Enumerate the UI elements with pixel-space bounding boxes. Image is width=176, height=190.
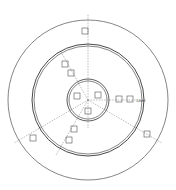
layout-diagram: 120m — [0, 0, 176, 190]
dimension-label: 120m — [136, 99, 145, 103]
sensor-units — [30, 28, 150, 143]
diagram-canvas: 120m — [0, 0, 176, 190]
